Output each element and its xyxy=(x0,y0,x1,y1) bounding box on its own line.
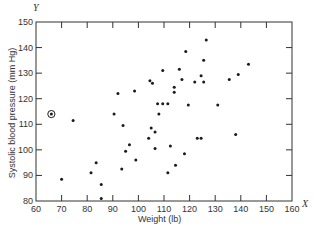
data-point xyxy=(228,78,231,81)
data-point xyxy=(157,113,160,116)
data-point xyxy=(100,197,103,200)
data-point xyxy=(184,50,187,53)
data-point xyxy=(122,124,125,127)
data-point xyxy=(113,113,116,116)
scatter-chart: 60708090100110120130140150160 8090100110… xyxy=(0,0,314,232)
y-tick-label: 90 xyxy=(23,170,33,180)
x-tick-label: 100 xyxy=(131,204,146,214)
data-point xyxy=(200,74,203,77)
data-point xyxy=(148,79,151,82)
x-axis-label: Weight (lb) xyxy=(138,214,181,224)
data-point xyxy=(216,104,219,107)
x-tick-label: 160 xyxy=(284,204,299,214)
x-tick-label: 150 xyxy=(259,204,274,214)
data-point xyxy=(60,178,63,181)
data-point xyxy=(156,102,159,105)
data-point xyxy=(100,183,103,186)
data-points xyxy=(48,38,250,200)
data-point xyxy=(154,147,157,150)
data-point xyxy=(202,81,205,84)
data-point xyxy=(151,82,154,85)
data-point xyxy=(90,171,93,174)
x-tick-label: 80 xyxy=(82,204,92,214)
y-tick-label: 130 xyxy=(18,68,33,78)
data-point xyxy=(193,81,196,84)
data-point xyxy=(120,168,123,171)
x-tick-label: 120 xyxy=(182,204,197,214)
data-point xyxy=(178,68,181,71)
x-tick-label: 110 xyxy=(157,204,171,214)
y-tick-label: 140 xyxy=(18,43,33,53)
y-tick-label: 100 xyxy=(18,145,33,155)
data-point xyxy=(147,137,150,140)
data-point xyxy=(183,152,186,155)
data-point xyxy=(234,133,237,136)
data-point xyxy=(133,90,136,93)
data-point xyxy=(95,161,98,164)
data-point xyxy=(50,113,53,116)
data-point xyxy=(237,73,240,76)
plot-frame xyxy=(36,22,292,201)
data-point xyxy=(173,86,176,89)
y-tick-label: 110 xyxy=(19,119,33,129)
data-point xyxy=(196,137,199,140)
data-point xyxy=(200,137,203,140)
data-point xyxy=(173,91,176,94)
y-axis-ticks: 8090100110120130140150 xyxy=(18,17,292,206)
data-point xyxy=(134,159,137,162)
data-point xyxy=(180,78,183,81)
y-axis-label: Systolic blood pressure (mm Hg) xyxy=(7,43,17,183)
plot-border xyxy=(36,22,292,201)
data-point xyxy=(205,38,208,41)
x-tick-label: 70 xyxy=(57,204,67,214)
data-point xyxy=(128,143,131,146)
data-point xyxy=(161,102,164,105)
y-tick-label: 80 xyxy=(23,196,33,206)
x-axis-symbol: X xyxy=(301,198,309,209)
y-axis-symbol: Y xyxy=(33,2,40,13)
data-point xyxy=(174,164,177,167)
x-tick-label: 130 xyxy=(208,204,223,214)
y-tick-label: 120 xyxy=(18,94,33,104)
data-point xyxy=(161,69,164,72)
x-tick-label: 140 xyxy=(233,204,248,214)
data-point xyxy=(166,171,169,174)
data-point xyxy=(72,119,75,122)
y-tick-label: 150 xyxy=(18,17,33,27)
data-point xyxy=(187,104,190,107)
data-point xyxy=(154,130,157,133)
data-point xyxy=(124,150,127,153)
data-point xyxy=(247,63,250,66)
data-point xyxy=(116,92,119,95)
data-point xyxy=(166,102,169,105)
data-point xyxy=(169,145,172,148)
data-point xyxy=(150,127,153,130)
x-tick-label: 90 xyxy=(108,204,118,214)
data-point xyxy=(202,59,205,62)
x-axis-ticks: 60708090100110120130140150160 xyxy=(31,22,300,214)
